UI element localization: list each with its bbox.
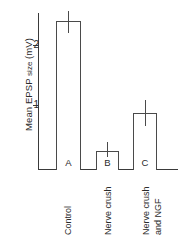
- x-category-label-nerve-crush-ngf-line2: and NGF: [153, 198, 164, 235]
- y-tick-2: 2: [0, 40, 39, 50]
- bar-a-letter: A: [57, 158, 80, 168]
- y-axis-label-sub: size: [25, 59, 34, 78]
- x-category-label-control: Control: [63, 206, 74, 235]
- y-axis-line: [38, 13, 39, 170]
- y-tick-label-2: 2: [17, 40, 39, 50]
- bar-b-error-bar: [107, 142, 108, 157]
- x-category-label-nerve-crush: Nerve crush: [103, 186, 114, 235]
- bar-c-error-bar: [145, 100, 146, 126]
- bar-c-letter: C: [134, 158, 156, 168]
- y-axis-label: Mean EPSP size (mV): [23, 10, 34, 160]
- x-category-label-nerve-crush-ngf-line1: Nerve crush: [141, 186, 152, 235]
- bar-b-letter: B: [97, 158, 118, 168]
- y-tick-1: 1: [0, 100, 39, 110]
- chart-figure: Mean EPSP size (mV) 2 1 A B C Control Ne…: [0, 0, 183, 240]
- bar-a-error-bar: [68, 11, 69, 33]
- bar-a: A: [56, 21, 81, 170]
- y-tick-label-1: 1: [17, 100, 39, 110]
